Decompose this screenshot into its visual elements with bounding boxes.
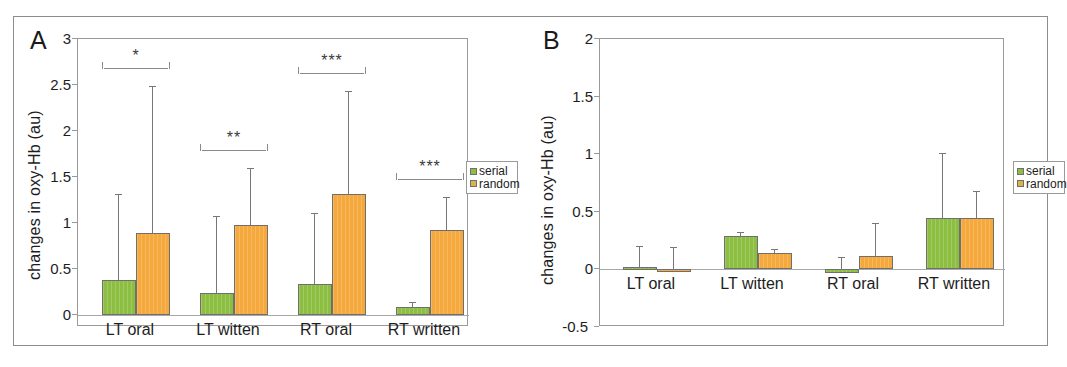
panel-a-errorcap-random-lt-oral [149,86,156,87]
panel-b-legend-swatch-serial-icon [1017,168,1024,175]
panel-a-errorcap-random-lt-witten [247,168,254,169]
panel-b-legend-swatch-random-icon [1017,180,1024,187]
panel-a-significance-stars-lt-witten: ** [200,130,268,146]
panel-b-errorcap-serial-rt-written [939,153,946,154]
panel-b-bar-random-lt-oral[interactable] [657,269,691,272]
panel-a-errorbar-random-rt-written [446,197,447,230]
panel-a: A changes in oxy-Hb (au) 3 2.5 2 1.5 1 0… [0,0,525,367]
panel-a-errorbar-random-lt-witten [250,168,251,225]
panel-b-y-axis-label: changes in oxy-Hb (au) [539,115,557,285]
panel-b-legend: serial random [1013,161,1065,194]
panel-a-errorcap-random-rt-oral [345,91,352,92]
panel-b: B changes in oxy-Hb (au) 2 1.5 1 0.5 0 -… [525,0,1061,367]
panel-b-bar-random-rt-written[interactable] [960,218,994,269]
panel-a-ytick-0: 0 [31,307,71,322]
panel-a-ytick-0p5: 0.5 [31,261,71,276]
panel-a-bar-random-rt-oral[interactable] [332,194,366,315]
panel-a-legend-row-serial[interactable]: serial [470,165,513,178]
panel-b-ytick-neg0p5: -0.5 [548,319,588,334]
panel-a-bar-random-lt-witten[interactable] [234,225,268,315]
panel-b-errorbar-random-lt-oral [673,247,674,270]
panel-b-bar-serial-rt-written[interactable] [926,218,960,269]
panel-a-errorbar-random-rt-oral [348,91,349,194]
panel-a-errorbar-random-lt-oral [152,86,153,233]
panel-b-ytick-1p5: 1.5 [553,89,593,104]
panel-a-legend-label-serial: serial [479,165,508,178]
panel-b-ytick-1: 1 [553,146,593,161]
panel-b-errorcap-random-lt-witten [771,249,778,250]
panel-b-xtick-rt-written: RT written [895,276,1013,292]
panel-a-legend-swatch-serial-icon [470,168,477,175]
panel-a-ytick-1: 1 [31,215,71,230]
panel-a-bar-serial-rt-written[interactable] [396,307,430,315]
panel-a-significance-stars-lt-oral: * [102,48,170,64]
panel-a-errorcap-serial-rt-oral [311,213,318,214]
panel-a-bar-random-lt-oral[interactable] [136,233,170,315]
panel-b-errorbar-random-rt-written [976,191,977,218]
panel-a-bar-serial-lt-witten[interactable] [200,293,234,315]
panel-b-bar-random-lt-witten[interactable] [758,253,792,269]
panel-a-errorcap-serial-lt-witten [213,216,220,217]
panel-b-errorbar-random-rt-oral [875,223,876,256]
panel-b-errorcap-serial-lt-witten [737,232,744,233]
panel-a-errorcap-serial-rt-written [409,302,416,303]
panel-a-legend-swatch-random-icon [470,180,477,187]
panel-a-legend: serial random [466,161,518,194]
panel-b-legend-row-random[interactable]: random [1017,178,1060,191]
panel-b-errorbar-serial-rt-oral [841,257,842,270]
panel-b-ytick-0p5: 0.5 [553,204,593,219]
panel-b-legend-label-random: random [1026,178,1067,191]
panel-a-significance-stars-rt-written: *** [396,159,464,175]
panel-b-bar-random-rt-oral[interactable] [859,256,893,269]
panel-b-legend-row-serial[interactable]: serial [1017,165,1060,178]
panel-a-bar-random-rt-written[interactable] [430,230,464,315]
panel-a-ytick-2p5: 2.5 [31,77,71,92]
panel-b-errorcap-random-rt-written [973,191,980,192]
panel-a-ytick-3: 3 [31,31,71,46]
panel-a-significance-stars-rt-oral: *** [298,53,366,69]
panel-b-errorcap-serial-rt-oral [838,257,845,258]
panel-b-bar-serial-rt-oral[interactable] [825,269,859,273]
panel-a-ytick-2: 2 [31,123,71,138]
panel-a-legend-label-random: random [479,178,520,191]
panel-b-legend-label-serial: serial [1026,165,1055,178]
panel-b-errorbar-serial-rt-written [942,153,943,218]
panel-a-errorbar-serial-lt-oral [118,194,119,280]
panel-b-errorbar-serial-lt-oral [639,246,640,267]
panel-b-ytick-0: 0 [553,261,593,276]
panel-a-baseline [78,315,469,316]
panel-a-plot-area: * ** [77,38,468,326]
panel-a-bar-serial-rt-oral[interactable] [298,284,332,315]
panel-b-bar-serial-lt-witten[interactable] [724,236,758,269]
panel-a-errorbar-serial-rt-oral [314,213,315,284]
panel-b-errorcap-serial-lt-oral [636,246,643,247]
panel-a-errorbar-serial-lt-witten [216,216,217,293]
panel-b-bar-serial-lt-oral[interactable] [623,267,657,270]
panel-a-xtick-rt-written: RT written [365,322,483,338]
panel-a-legend-row-random[interactable]: random [470,178,513,191]
panel-b-errorcap-random-rt-oral [872,223,879,224]
panel-a-errorcap-random-rt-written [443,197,450,198]
panel-b-ytick-2: 2 [553,31,593,46]
panel-a-errorcap-serial-lt-oral [115,194,122,195]
panel-b-errorcap-random-lt-oral [670,247,677,248]
panel-a-bar-serial-lt-oral[interactable] [102,280,136,315]
panel-a-ytick-1p5: 1.5 [31,169,71,184]
